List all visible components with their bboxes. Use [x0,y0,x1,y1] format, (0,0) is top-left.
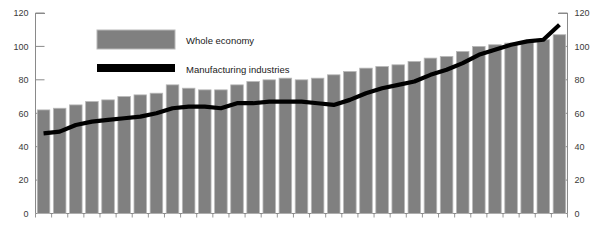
bar [521,41,534,213]
bar [327,75,340,214]
right-axis-tick-label: 0 [575,209,580,219]
bar [424,58,437,213]
chart-container: Whole economy Manufacturing industries 0… [0,0,603,227]
bar [489,45,502,214]
bar [279,78,292,213]
right-axis-tick-label: 20 [575,175,585,185]
bar [456,51,469,213]
left-axis-tick-label: 40 [18,142,28,152]
legend-swatch-whole-economy [97,30,175,49]
right-axis-tick-label: 120 [575,8,590,18]
bar [311,78,324,213]
left-axis-tick-label: 100 [13,42,28,52]
left-axis-tick-label: 80 [18,75,28,85]
bar [134,95,147,214]
left-axis-tick-label: 60 [18,109,28,119]
bar [440,56,453,213]
bar [473,46,486,213]
right-axis-tick-label: 80 [575,75,585,85]
right-axis-tick-label: 60 [575,109,585,119]
legend-swatch-manufacturing-industries [97,64,175,72]
bar [553,35,566,214]
bar [166,85,179,214]
left-axis-tick-label: 0 [23,209,28,219]
bar [344,71,357,213]
left-axis-tick-label: 20 [18,175,28,185]
bar [70,105,83,214]
bar-line-chart: Whole economy Manufacturing industries 0… [0,0,603,227]
bar [102,100,115,214]
bar [118,97,131,214]
left-axis-tick-label: 120 [13,8,28,18]
legend-label-whole-economy: Whole economy [186,35,254,46]
bar [537,40,550,214]
bar [53,108,66,213]
right-axis-tick-label: 100 [575,42,590,52]
bar [505,43,518,213]
bar [37,110,50,214]
legend-label-manufacturing-industries: Manufacturing industries [186,64,290,75]
right-axis-tick-label: 40 [575,142,585,152]
bar [86,102,99,214]
